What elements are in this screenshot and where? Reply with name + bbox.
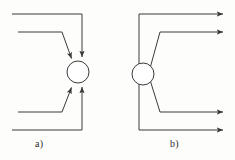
panel-a-caption: a) bbox=[35, 138, 43, 149]
panel-a-edge-top-inner bbox=[18, 32, 72, 59]
figure-container: a) b) bbox=[0, 0, 235, 160]
panel-b-caption: b) bbox=[170, 138, 179, 149]
figure-drawing bbox=[0, 0, 235, 160]
panel-b-group bbox=[132, 14, 223, 130]
panel-a-node-circle bbox=[67, 61, 89, 83]
panel-b-node-circle bbox=[132, 63, 154, 85]
panel-a-edge-bottom-outer bbox=[12, 87, 82, 130]
panel-a-edge-top-outer bbox=[12, 14, 82, 57]
panel-b-edge-bottom-inner bbox=[151, 82, 224, 113]
panel-a-edge-bottom-inner bbox=[18, 88, 72, 113]
panel-a-group bbox=[12, 14, 89, 130]
panel-b-edge-top-outer bbox=[139, 14, 223, 64]
panel-b-edge-bottom-outer bbox=[139, 84, 223, 130]
panel-b-edge-top-inner bbox=[151, 32, 224, 67]
